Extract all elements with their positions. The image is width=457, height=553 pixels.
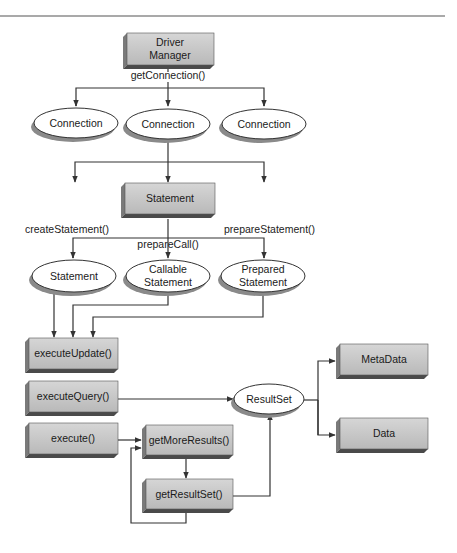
prepared-statement-line1: Prepared <box>241 263 284 275</box>
statement-box: Statement <box>121 183 215 218</box>
prepared-statement-line2: Statement <box>239 276 287 288</box>
resultset-ellipse: ResultSet <box>231 384 304 418</box>
callable-statement-line1: Callable <box>149 263 187 275</box>
edges-types-to-execute-update <box>54 293 263 337</box>
driver-manager-line2: Manager <box>149 49 191 61</box>
label-create-statement: createStatement() <box>25 223 109 235</box>
connection-3-label: Connection <box>237 118 290 130</box>
callable-statement-line2: Statement <box>144 276 192 288</box>
connection-ellipse-1: Connection <box>31 108 118 142</box>
get-result-set-box: getResultSet() <box>142 479 233 513</box>
label-get-connection: getConnection() <box>131 69 206 81</box>
label-prepare-statement: prepareStatement() <box>224 223 315 235</box>
data-box: Data <box>336 418 428 453</box>
execute-query-label: executeQuery() <box>37 390 109 402</box>
resultset-label: ResultSet <box>246 393 292 405</box>
edges-connection-to-statement <box>75 141 264 182</box>
statement-box-label: Statement <box>146 192 194 204</box>
connection-ellipse-2: Connection <box>123 109 210 143</box>
statement-ellipse-label: Statement <box>50 270 98 282</box>
connection-ellipse-3: Connection <box>219 109 306 143</box>
execute-box: execute() <box>25 423 118 458</box>
execute-label: execute() <box>51 432 95 444</box>
get-result-set-label: getResultSet() <box>155 488 222 500</box>
jdbc-flow-diagram: Driver Manager getConnection() Statement… <box>0 0 457 553</box>
label-prepare-call: prepareCall() <box>137 238 198 250</box>
get-more-results-box: getMoreResults() <box>142 425 233 459</box>
edge-getresultset-to-resultset <box>233 414 270 496</box>
callable-statement-ellipse: Callable Statement <box>123 260 210 296</box>
get-more-results-label: getMoreResults() <box>149 434 230 446</box>
metadata-box: MetaData <box>336 344 428 379</box>
driver-manager-box: Driver Manager <box>123 33 214 69</box>
execute-update-label: executeUpdate() <box>34 347 112 359</box>
execute-update-box: executeUpdate() <box>25 338 118 373</box>
connection-2-label: Connection <box>141 118 194 130</box>
execute-query-box: executeQuery() <box>25 381 118 416</box>
prepared-statement-ellipse: Prepared Statement <box>218 260 305 296</box>
connection-1-label: Connection <box>49 117 102 129</box>
statement-ellipse: Statement <box>29 260 116 296</box>
data-label: Data <box>373 427 395 439</box>
edges-resultset-to-outputs <box>304 361 335 435</box>
driver-manager-line1: Driver <box>156 36 185 48</box>
metadata-label: MetaData <box>361 353 407 365</box>
